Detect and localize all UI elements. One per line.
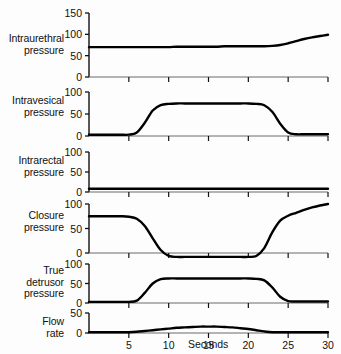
data-curve-true-detrusor-pressure <box>89 278 328 302</box>
y-tick-label: 100 <box>64 86 82 98</box>
y-tick-label: 100 <box>64 28 82 40</box>
y-tick-label: 50 <box>70 307 82 319</box>
x-tick-label: 20 <box>242 339 254 351</box>
y-tick-label: 50 <box>70 223 82 235</box>
y-tick-label: 100 <box>64 198 82 210</box>
urodynamics-chart: Intraurethralpressure050100150Intravesic… <box>0 0 341 354</box>
y-tick-label: 100 <box>64 146 82 158</box>
y-tick-label: 50 <box>70 278 82 290</box>
y-tick-label: 50 <box>70 108 82 120</box>
x-axis-title: Seconds <box>188 338 228 350</box>
data-curve-intravesical-pressure <box>89 103 328 134</box>
data-curve-closure-pressure <box>89 204 328 257</box>
x-tick-label: 10 <box>163 339 175 351</box>
panel-plot-flow-rate: 05051015202530 <box>0 301 341 354</box>
y-tick-label: 50 <box>70 166 82 178</box>
y-tick-label: 100 <box>64 258 82 270</box>
x-tick-label: 5 <box>126 339 132 351</box>
data-curve-flow-rate <box>89 327 328 333</box>
y-tick-label: 50 <box>70 50 82 62</box>
y-tick-label: 150 <box>64 7 82 19</box>
data-curve-intraurethral-pressure <box>89 35 328 47</box>
y-tick-label: 0 <box>76 327 82 339</box>
x-tick-label: 25 <box>282 339 294 351</box>
panel-flow-rate: 05051015202530 <box>0 301 341 354</box>
x-tick-label: 30 <box>322 339 334 351</box>
